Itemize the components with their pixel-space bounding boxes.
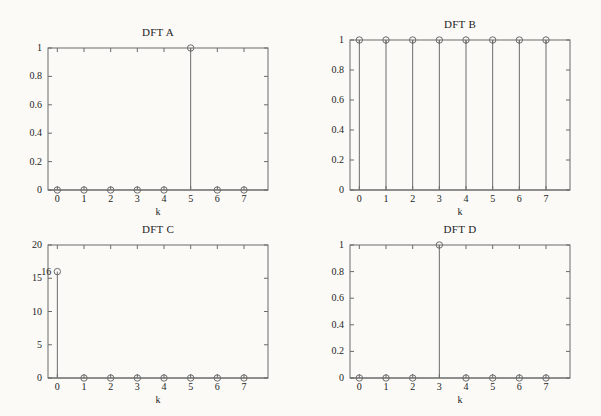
x-tick-label: 3 [127, 382, 147, 392]
x-tick-label: 0 [349, 382, 369, 392]
axes-dft-c [0, 213, 300, 416]
x-tick-label: 5 [181, 382, 201, 392]
y-tick-label: 0.6 [306, 293, 344, 303]
x-tick-label: 4 [154, 194, 174, 204]
x-tick-label: 4 [456, 382, 476, 392]
x-tick-label: 5 [181, 194, 201, 204]
y-tick-label: 1 [306, 35, 344, 45]
subplot-dft-c: DFT C0510152001234567k16 [0, 213, 300, 416]
y-tick-label: 1 [4, 43, 42, 53]
x-tick-label: 3 [429, 194, 449, 204]
y-tick-label: 20 [4, 240, 42, 250]
y-tick-label: 0.8 [306, 267, 344, 277]
y-tick-label: 0 [4, 373, 42, 383]
x-axis-label-dft-d: k [310, 394, 601, 405]
axes-frame [350, 40, 570, 190]
x-tick-label: 3 [429, 382, 449, 392]
x-tick-label: 0 [47, 194, 67, 204]
y-tick-label: 0 [306, 185, 344, 195]
y-tick-label: 0.6 [4, 100, 42, 110]
x-tick-label: 4 [154, 382, 174, 392]
x-tick-label: 2 [403, 194, 423, 204]
y-tick-label: 0.8 [306, 65, 344, 75]
y-tick-label: 0 [306, 373, 344, 383]
x-axis-label-dft-c: k [8, 394, 308, 405]
subplot-dft-b: DFT B00.20.40.60.8101234567k [300, 8, 601, 208]
y-tick-label: 0.4 [4, 128, 42, 138]
y-tick-label: 10 [4, 307, 42, 317]
x-tick-label: 7 [234, 194, 254, 204]
x-tick-label: 6 [509, 194, 529, 204]
x-tick-label: 1 [74, 382, 94, 392]
x-tick-label: 2 [403, 382, 423, 392]
y-tick-label: 0.6 [306, 95, 344, 105]
y-tick-label: 0.2 [306, 346, 344, 356]
axes-frame [48, 245, 268, 378]
y-tick-label: 1 [306, 240, 344, 250]
x-tick-label: 4 [456, 194, 476, 204]
y-tick-label: 0.2 [306, 155, 344, 165]
y-tick-label: 0.4 [306, 125, 344, 135]
x-tick-label: 1 [74, 194, 94, 204]
x-tick-label: 5 [483, 382, 503, 392]
axes-frame [350, 245, 570, 378]
axes-dft-a [0, 8, 300, 208]
subplot-dft-a: DFT A00.20.40.60.8101234567k [0, 8, 300, 208]
x-tick-label: 5 [483, 194, 503, 204]
x-tick-label: 6 [207, 194, 227, 204]
y-tick-label: 0.2 [4, 157, 42, 167]
x-tick-label: 2 [101, 194, 121, 204]
x-tick-label: 7 [536, 382, 556, 392]
axes-frame [48, 48, 268, 190]
x-tick-label: 3 [127, 194, 147, 204]
x-tick-label: 1 [376, 382, 396, 392]
figure-canvas: DFT A00.20.40.60.8101234567kDFT B00.20.4… [0, 0, 601, 416]
x-tick-label: 7 [234, 382, 254, 392]
y-tick-label: 5 [4, 340, 42, 350]
x-tick-label: 7 [536, 194, 556, 204]
y-tick-label: 0 [4, 185, 42, 195]
x-tick-label: 0 [47, 382, 67, 392]
x-tick-label: 6 [509, 382, 529, 392]
x-tick-label: 2 [101, 382, 121, 392]
axes-dft-b [300, 8, 601, 208]
point-annotation: 16 [11, 267, 51, 277]
x-tick-label: 0 [349, 194, 369, 204]
x-tick-label: 6 [207, 382, 227, 392]
y-tick-label: 0.8 [4, 71, 42, 81]
x-tick-label: 1 [376, 194, 396, 204]
subplot-dft-d: DFT D00.20.40.60.8101234567k [300, 213, 601, 416]
y-tick-label: 0.4 [306, 320, 344, 330]
